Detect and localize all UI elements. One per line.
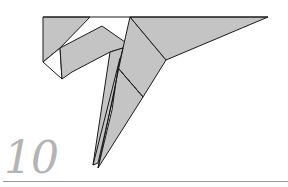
step-number: 10 — [4, 136, 58, 180]
bottom-rule — [3, 181, 288, 182]
